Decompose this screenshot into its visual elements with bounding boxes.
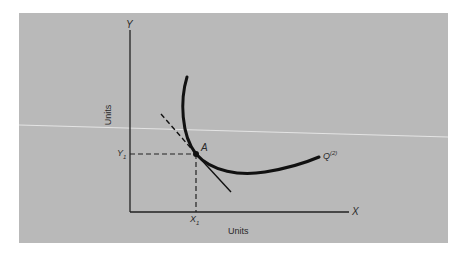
x1-tick-label: X1 (190, 214, 199, 226)
x1-tick-sub: 1 (196, 220, 199, 226)
scan-artifact-line (19, 125, 448, 137)
curve-label-text: Q (323, 151, 330, 161)
curve-label-sup: (2) (330, 150, 337, 156)
y1-tick-sub: 1 (123, 154, 126, 160)
x-axis-title: Units (228, 226, 249, 236)
point-a-label: A (201, 142, 208, 153)
y-axis-label: Y (126, 19, 133, 30)
curve-label: Q(2) (323, 150, 337, 161)
point-a-marker (193, 151, 199, 157)
isoquant-curve (183, 77, 319, 173)
y1-tick-label: Y1 (117, 148, 126, 160)
y-axis-title: Units (103, 105, 113, 126)
x-axis-label: X (352, 206, 359, 217)
isoquant-diagram (0, 0, 466, 262)
